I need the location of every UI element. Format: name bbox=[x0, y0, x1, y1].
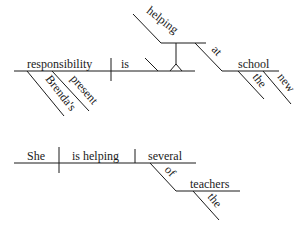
word-preposition-2: of bbox=[162, 163, 179, 180]
complement-slant bbox=[145, 58, 158, 71]
diagram-2: She is helping several of teachers the bbox=[14, 147, 240, 220]
sentence-diagram-canvas: responsibility is helping at school the … bbox=[0, 0, 305, 233]
word-subject: responsibility bbox=[27, 57, 92, 71]
pedestal-base bbox=[170, 64, 182, 71]
diagram-1: responsibility is helping at school the … bbox=[14, 3, 298, 116]
word-object-2: several bbox=[148, 149, 183, 163]
word-modifier-new: new bbox=[275, 70, 299, 95]
word-verb: is bbox=[121, 57, 129, 71]
word-verb-2: is helping bbox=[72, 149, 119, 163]
word-preposition: at bbox=[209, 42, 226, 58]
word-object-of-prep: school bbox=[238, 57, 270, 71]
word-subject-2: She bbox=[27, 149, 45, 163]
word-object-of-prep-2: teachers bbox=[190, 177, 230, 191]
